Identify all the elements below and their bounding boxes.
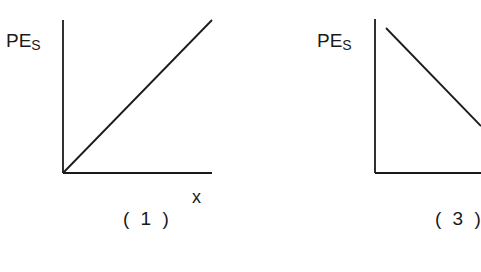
panel-1-increasing-line — [63, 20, 212, 173]
panel-3-y-label-subscript: S — [342, 37, 351, 53]
panel-3-y-label-main: PE — [317, 30, 342, 51]
panel-1-y-label-subscript: S — [31, 37, 40, 53]
panel-3 — [375, 19, 481, 173]
panel-1-y-label-main: PE — [6, 30, 31, 51]
panel-1-x-axis-label: x — [192, 187, 201, 208]
panel-3-decreasing-line — [386, 28, 481, 126]
graphs-canvas — [0, 0, 481, 272]
panel-1 — [63, 20, 212, 173]
panel-3-y-axis-label: PES — [317, 30, 352, 53]
panel-3-caption: ( 3 ) — [435, 208, 481, 230]
panel-1-y-axis-label: PES — [6, 30, 41, 53]
panel-1-caption: ( 1 ) — [123, 208, 172, 230]
